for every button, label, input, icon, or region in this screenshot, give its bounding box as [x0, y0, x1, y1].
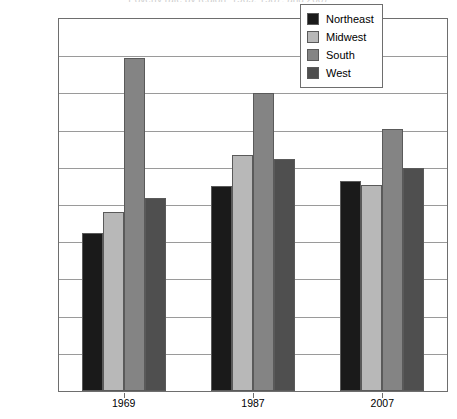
- legend-label-south: South: [326, 50, 355, 61]
- legend-swatch-south: [307, 49, 319, 61]
- gridline: [59, 56, 447, 57]
- chart-title: Poverty rate by region: 1969, 1987, and …: [0, 0, 457, 2]
- bar-northeast-1969: [82, 233, 103, 391]
- bar-south-1987: [253, 93, 274, 391]
- chart-legend: NortheastMidwestSouthWest: [300, 4, 383, 88]
- bar-midwest-2007: [361, 185, 382, 392]
- bar-west-1969: [145, 198, 166, 391]
- bar-west-2007: [403, 168, 424, 391]
- bar-west-1987: [274, 159, 295, 392]
- legend-item-south: South: [307, 46, 374, 64]
- legend-item-west: West: [307, 64, 374, 82]
- legend-label-west: West: [326, 68, 351, 79]
- legend-label-midwest: Midwest: [326, 32, 366, 43]
- x-tick-label-1969: 1969: [84, 397, 164, 409]
- legend-swatch-midwest: [307, 31, 319, 43]
- x-tick-label-2007: 2007: [342, 397, 422, 409]
- legend-swatch-west: [307, 67, 319, 79]
- legend-swatch-northeast: [307, 13, 319, 25]
- bar-northeast-2007: [340, 181, 361, 391]
- legend-item-midwest: Midwest: [307, 28, 374, 46]
- bar-midwest-1987: [232, 155, 253, 391]
- plot-area: 0%2%4%6%8%10%12%14%16%18%20%196919872007: [58, 18, 448, 392]
- bar-south-1969: [124, 58, 145, 391]
- bar-northeast-1987: [211, 186, 232, 391]
- x-tick-label-1987: 1987: [213, 397, 293, 409]
- chart-root: Poverty rate by region: 1969, 1987, and …: [0, 0, 457, 419]
- bar-south-2007: [382, 129, 403, 391]
- legend-label-northeast: Northeast: [326, 14, 374, 25]
- bar-midwest-1969: [103, 212, 124, 391]
- legend-item-northeast: Northeast: [307, 10, 374, 28]
